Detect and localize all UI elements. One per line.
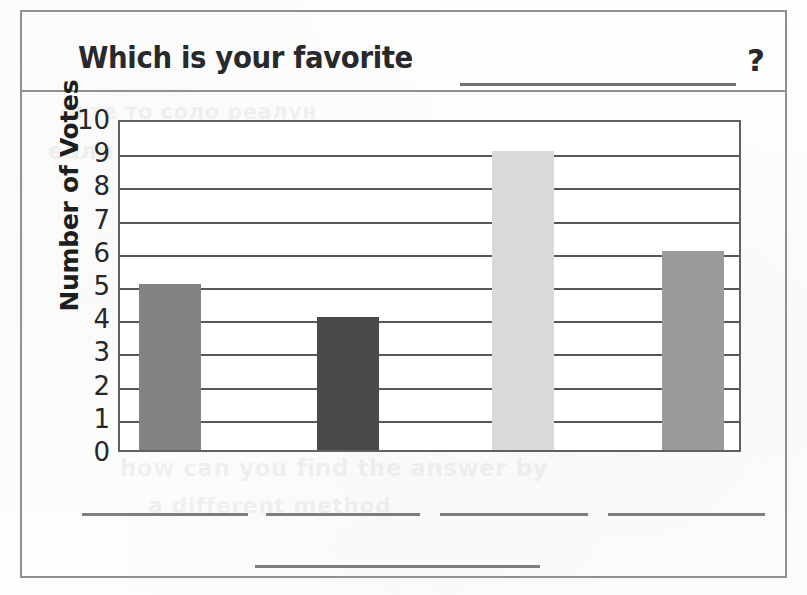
y-tick-label: 0 bbox=[93, 439, 110, 465]
gridline bbox=[120, 388, 739, 390]
gridline bbox=[120, 354, 739, 356]
question-header: Which is your favorite ? bbox=[20, 10, 787, 92]
bar-4 bbox=[662, 251, 724, 450]
y-tick-label: 1 bbox=[93, 406, 110, 432]
y-tick-label: 4 bbox=[93, 306, 110, 332]
question-fill-in-blank[interactable] bbox=[460, 83, 736, 86]
gridline bbox=[120, 421, 739, 423]
bar-chart-plot-area bbox=[118, 120, 741, 452]
gridline bbox=[120, 155, 739, 157]
y-tick-label: 9 bbox=[93, 140, 110, 166]
category-blank-3[interactable] bbox=[440, 513, 588, 516]
category-blank-4[interactable] bbox=[608, 513, 765, 516]
y-tick-label: 8 bbox=[93, 173, 110, 199]
y-tick-label: 10 bbox=[77, 107, 110, 133]
y-tick-label: 7 bbox=[93, 207, 110, 233]
y-tick-label: 5 bbox=[93, 273, 110, 299]
bar-1 bbox=[139, 284, 201, 450]
question-row: Which is your favorite bbox=[78, 40, 442, 75]
question-prefix-label: Which is your favorite bbox=[78, 40, 413, 75]
bar-2 bbox=[317, 317, 379, 450]
gridline bbox=[120, 188, 739, 190]
category-blank-2[interactable] bbox=[266, 513, 420, 516]
gridline bbox=[120, 288, 739, 290]
question-mark-label: ? bbox=[747, 42, 765, 78]
bar-3 bbox=[492, 151, 554, 450]
gridline bbox=[120, 222, 739, 224]
category-blank-1[interactable] bbox=[82, 513, 248, 516]
x-axis-title-blank[interactable] bbox=[255, 565, 540, 568]
y-tick-label: 2 bbox=[93, 373, 110, 399]
y-tick-label: 3 bbox=[93, 339, 110, 365]
gridline bbox=[120, 255, 739, 257]
gridline bbox=[120, 321, 739, 323]
y-axis-tick-labels: 109876543210 bbox=[74, 120, 114, 452]
y-tick-label: 6 bbox=[93, 240, 110, 266]
